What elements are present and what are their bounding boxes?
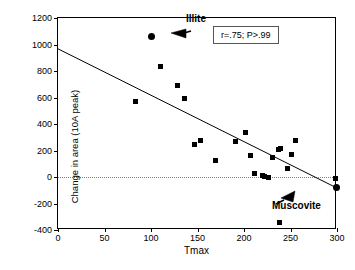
- y-tick: [54, 98, 58, 99]
- y-axis-title: Change in area (10A peak): [69, 67, 80, 227]
- x-tick: [337, 228, 338, 232]
- data-point: [270, 155, 275, 160]
- statistics-box: r=.75; P>.99: [213, 26, 279, 44]
- data-point: [213, 158, 218, 163]
- statistics-text: r=.75; P>.99: [221, 30, 271, 40]
- x-tick: [244, 228, 245, 232]
- x-tick-label: 0: [55, 234, 60, 243]
- x-tick-label: 250: [283, 234, 298, 243]
- x-tick: [291, 228, 292, 232]
- y-tick-label: 200: [37, 146, 52, 155]
- data-point: [175, 83, 180, 88]
- x-axis-title: Tmax: [57, 245, 336, 256]
- data-point: [198, 138, 203, 143]
- x-tick-label: 100: [143, 234, 158, 243]
- y-tick: [54, 45, 58, 46]
- x-tick-label: 50: [99, 234, 109, 243]
- y-tick: [54, 18, 58, 19]
- muscovite-arrow-icon: [58, 18, 337, 230]
- y-tick-label: 1200: [32, 14, 52, 23]
- y-tick-label: 1000: [32, 40, 52, 49]
- data-point: [266, 175, 271, 180]
- y-tick-label: 800: [37, 67, 52, 76]
- y-tick: [54, 177, 58, 178]
- y-tick-label: 400: [37, 120, 52, 129]
- y-tick: [54, 151, 58, 152]
- data-point-illite: [148, 33, 155, 40]
- plot-area: -400-200020040060080010001200 0501001502…: [57, 17, 336, 229]
- data-point: [182, 96, 187, 101]
- data-point: [293, 138, 298, 143]
- data-point: [243, 130, 248, 135]
- x-tick-label: 300: [329, 234, 344, 243]
- data-point: [277, 220, 282, 225]
- y-tick-label: -400: [34, 226, 52, 235]
- y-tick: [54, 71, 58, 72]
- x-tick: [105, 228, 106, 232]
- y-tick-label: 600: [37, 93, 52, 102]
- data-point: [285, 166, 290, 171]
- y-tick: [54, 204, 58, 205]
- illite-annotation-label: Illite: [186, 14, 206, 24]
- data-point: [289, 152, 294, 157]
- x-tick-label: 200: [236, 234, 251, 243]
- data-point: [252, 171, 257, 176]
- x-tick: [58, 228, 59, 232]
- y-tick-label: -200: [34, 199, 52, 208]
- data-point: [333, 176, 338, 181]
- data-point: [158, 64, 163, 69]
- data-point: [192, 142, 197, 147]
- data-point: [248, 153, 253, 158]
- data-point: [278, 146, 283, 151]
- y-tick: [54, 124, 58, 125]
- x-tick-label: 150: [190, 234, 205, 243]
- x-tick: [151, 228, 152, 232]
- muscovite-annotation-label: Muscovite: [272, 201, 321, 211]
- y-tick-label: 0: [47, 173, 52, 182]
- data-point: [233, 139, 238, 144]
- data-point: [133, 99, 138, 104]
- x-tick: [198, 228, 199, 232]
- data-point-muscovite: [333, 184, 340, 191]
- scatter-chart-figure: -400-200020040060080010001200 0501001502…: [0, 0, 355, 270]
